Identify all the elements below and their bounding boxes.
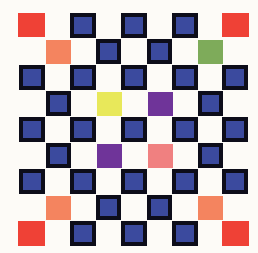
blue-tile	[222, 65, 248, 90]
blue-tile	[121, 169, 147, 194]
blue-tile	[19, 117, 45, 142]
red-tile	[222, 13, 249, 37]
blue-tile	[46, 143, 71, 168]
pink-tile	[148, 144, 173, 168]
blue-tile	[121, 65, 147, 90]
blue-tile	[70, 117, 96, 142]
blue-tile	[121, 117, 147, 142]
blue-tile	[222, 169, 248, 194]
blue-tile	[172, 221, 198, 246]
blue-tile	[70, 65, 96, 90]
blue-tile	[198, 143, 223, 168]
orange-tile	[46, 196, 71, 220]
blue-tile	[172, 65, 198, 90]
blue-tile	[46, 91, 71, 116]
blue-tile	[172, 117, 198, 142]
yellow-tile	[97, 92, 122, 116]
blue-tile	[121, 13, 147, 38]
blue-tile	[147, 39, 172, 64]
purple-tile	[97, 144, 122, 168]
blue-tile	[70, 169, 96, 194]
red-tile	[18, 13, 45, 37]
green-tile	[198, 40, 223, 64]
blue-tile	[19, 169, 45, 194]
blue-tile	[147, 195, 172, 220]
purple-tile	[148, 92, 173, 116]
orange-tile	[46, 40, 71, 64]
red-tile	[222, 221, 249, 246]
blue-tile	[222, 117, 248, 142]
blue-tile	[19, 65, 45, 90]
red-tile	[18, 221, 45, 246]
orange-tile	[198, 196, 223, 220]
blue-tile	[70, 13, 96, 38]
blue-tile	[121, 221, 147, 246]
blue-tile	[172, 13, 198, 38]
blue-tile	[96, 39, 121, 64]
blue-tile	[96, 195, 121, 220]
blue-tile	[172, 169, 198, 194]
blue-tile	[198, 91, 223, 116]
blue-tile	[70, 221, 96, 246]
artwork-canvas	[0, 0, 258, 253]
